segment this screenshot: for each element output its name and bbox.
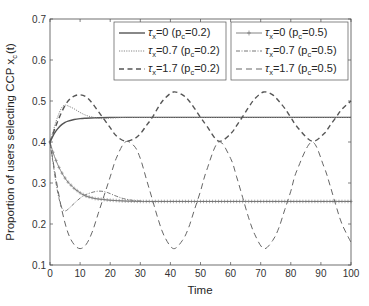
legend-left: τx=0 (pc=0.2)τx=0.7 (pc=0.2)τx=1.7 (pc=0… — [114, 22, 226, 80]
x-tick-label: 80 — [285, 268, 297, 279]
plot-curves — [48, 92, 352, 249]
x-tick-label: 70 — [255, 268, 267, 279]
x-tick-label: 90 — [315, 268, 327, 279]
x-tick-labels: 0102030405060708090100 — [47, 268, 360, 279]
series-line-2 — [50, 105, 351, 142]
y-tick-label: 0.1 — [32, 260, 46, 271]
x-tick-label: 10 — [75, 268, 87, 279]
y-tick-label: 0.3 — [32, 178, 46, 189]
y-tick-labels: 0.10.20.30.40.50.60.7 — [32, 14, 46, 271]
y-tick-label: 0.5 — [32, 96, 46, 107]
legend-right: τx=0 (pc=0.5)τx=0.7 (pc=0.5)τx=1.7 (pc=0… — [231, 22, 348, 80]
plus-markers — [48, 140, 352, 203]
y-tick-label: 0.6 — [32, 55, 46, 66]
series-line-4 — [50, 142, 351, 201]
y-tick-label: 0.4 — [32, 137, 46, 148]
x-tick-label: 60 — [225, 268, 237, 279]
y-axis-label: Proportion of users selecting CCP xc(t) — [4, 43, 19, 241]
x-tick-label: 40 — [165, 268, 177, 279]
series-line-1 — [50, 117, 351, 142]
y-tick-label: 0.2 — [32, 219, 46, 230]
x-tick-label: 30 — [135, 268, 147, 279]
x-tick-label: 50 — [195, 268, 207, 279]
x-axis-label: Time — [187, 284, 212, 296]
x-tick-label: 20 — [105, 268, 117, 279]
x-tick-label: 0 — [47, 268, 53, 279]
y-tick-label: 0.7 — [32, 14, 46, 25]
series-line-6 — [50, 141, 351, 248]
x-tick-label: 100 — [343, 268, 360, 279]
line-chart: 0102030405060708090100 0.10.20.30.40.50.… — [0, 0, 369, 306]
